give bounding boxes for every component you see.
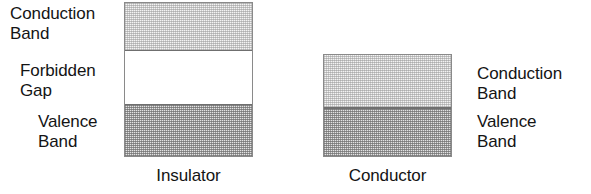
insulator-band-box — [124, 2, 253, 157]
insulator-conduction-band-region — [125, 3, 252, 51]
insulator-valence-band-label: Valence Band — [38, 112, 97, 152]
insulator-conduction-band-label: Conduction Band — [10, 4, 95, 44]
insulator-forbidden-gap-label: Forbidden Gap — [20, 61, 96, 101]
conductor-caption: Conductor — [323, 166, 452, 186]
insulator-forbidden-gap-region — [125, 51, 252, 104]
insulator-valence-band-region — [125, 104, 252, 156]
insulator-caption: Insulator — [124, 166, 253, 186]
conductor-conduction-band-label: Conduction Band — [477, 64, 562, 104]
energy-band-diagram: Conduction Band Forbidden Gap Valence Ba… — [0, 0, 591, 194]
conductor-valence-band-label: Valence Band — [477, 112, 536, 152]
conductor-band-box — [323, 54, 452, 157]
conductor-valence-band-region — [324, 108, 451, 156]
conductor-conduction-band-region — [324, 55, 451, 108]
